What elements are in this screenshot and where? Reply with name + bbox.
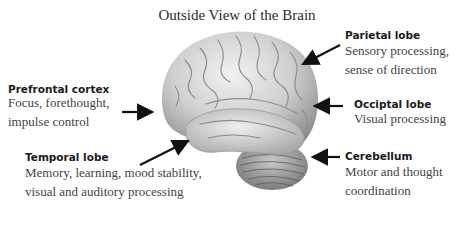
cerebellum-desc: Motor and thought coordination <box>345 162 443 200</box>
desc-line: coordination <box>345 181 443 200</box>
desc-line: visual and auditory processing <box>25 182 202 201</box>
temporal-arrow <box>140 142 186 165</box>
desc-line: Visual processing <box>354 109 446 128</box>
desc-line: Sensory processing, <box>345 41 449 60</box>
prefrontal-cortex-desc: Focus, forethought, impulse control <box>8 93 109 131</box>
desc-line: Motor and thought <box>345 162 443 181</box>
desc-line: Memory, learning, mood stability, <box>25 163 202 182</box>
parietal-arrow <box>305 45 340 63</box>
temporal-lobe-label: Temporal lobe <box>25 151 109 163</box>
parietal-lobe-desc: Sensory processing, sense of direction <box>345 41 449 79</box>
parietal-lobe-label: Parietal lobe <box>345 29 420 41</box>
temporal-lobe-desc: Memory, learning, mood stability, visual… <box>25 163 202 201</box>
occipital-lobe-desc: Visual processing <box>354 109 446 128</box>
desc-line: impulse control <box>8 112 109 131</box>
cerebellum-label: Cerebellum <box>345 150 412 162</box>
desc-line: Focus, forethought, <box>8 93 109 112</box>
desc-line: sense of direction <box>345 60 449 79</box>
